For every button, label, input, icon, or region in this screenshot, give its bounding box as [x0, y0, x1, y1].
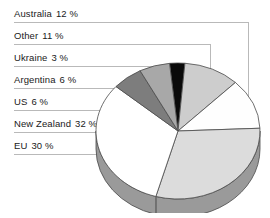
callout-label-us: US6 %	[14, 96, 48, 108]
callout-pct-other: 11 %	[42, 30, 63, 41]
callout-name-new-zealand: New Zealand	[14, 118, 71, 129]
pie-top-face	[96, 63, 260, 199]
pie-chart-screenshot: Australia12 % Other11 % Ukraine3 % Argen…	[0, 0, 270, 218]
pie-chart-graphic	[95, 58, 267, 213]
callout-pct-ukraine: 3 %	[51, 52, 68, 63]
callout-label-ukraine: Ukraine3 %	[14, 52, 68, 64]
callout-name-australia: Australia	[14, 8, 52, 19]
callout-name-argentina: Argentina	[14, 74, 56, 85]
leader-line-h-australia	[14, 22, 248, 23]
callout-name-us: US	[14, 96, 27, 107]
callout-name-other: Other	[14, 30, 38, 41]
callout-label-argentina: Argentina6 %	[14, 74, 76, 86]
callout-name-ukraine: Ukraine	[14, 52, 47, 63]
callout-label-eu: EU30 %	[14, 140, 53, 152]
callout-label-australia: Australia12 %	[14, 8, 78, 20]
callout-name-eu: EU	[14, 140, 27, 151]
callout-pct-new-zealand: 32 %	[75, 118, 97, 129]
callout-label-new-zealand: New Zealand32 %	[14, 118, 97, 130]
callout-pct-australia: 12 %	[56, 8, 78, 19]
leader-line-h-other	[14, 44, 210, 45]
callout-pct-us: 6 %	[31, 96, 48, 107]
pie-svg	[95, 58, 267, 213]
callout-pct-eu: 30 %	[31, 140, 53, 151]
callout-pct-argentina: 6 %	[60, 74, 77, 85]
callout-label-other: Other11 %	[14, 30, 64, 42]
